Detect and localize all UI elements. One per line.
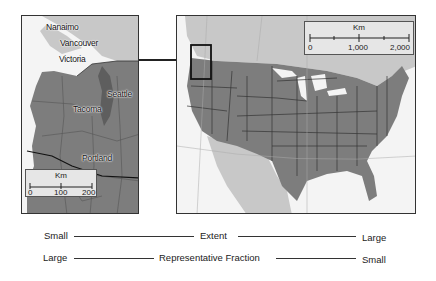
scale-tick-1000: 1,000	[348, 43, 368, 52]
rf-label: Representative Fraction	[159, 252, 260, 263]
city-label-seattle: Seattle	[107, 89, 132, 99]
scale-tick-0: 0	[28, 188, 32, 197]
rf-left-label: Large	[43, 252, 67, 263]
city-label-portland: Portland	[82, 153, 112, 163]
continental-map-usa: Km 0 1,000 2,000	[176, 15, 416, 214]
extent-axis: Small Extent Large	[0, 230, 436, 244]
extent-line-left	[74, 236, 194, 237]
rf-line-left	[74, 258, 154, 259]
scale-tick-100: 100	[54, 188, 67, 197]
city-label-tacoma: Tacoma	[73, 104, 102, 114]
scale-bar-regional: Km 0 100 200	[25, 169, 97, 197]
city-label-vancouver: Vancouver	[60, 38, 98, 48]
extent-right-label: Large	[362, 232, 386, 243]
extent-line-right	[238, 236, 356, 237]
regional-map-pacific-northwest: Nanaimo Vancouver Victoria Seattle Tacom…	[21, 15, 139, 214]
city-label-victoria: Victoria	[59, 54, 86, 64]
scale-bar-continental: Km 0 1,000 2,000	[304, 21, 414, 55]
extent-label: Extent	[200, 230, 227, 241]
scale-tick-0: 0	[308, 43, 312, 52]
representative-fraction-axis: Large Representative Fraction Small	[0, 252, 436, 266]
city-label-nanaimo: Nanaimo	[46, 22, 79, 32]
rf-line-right	[276, 258, 356, 259]
scale-tick-2000: 2,000	[390, 43, 410, 52]
scale-tick-200: 200	[82, 188, 95, 197]
extent-left-label: Small	[44, 230, 68, 241]
rf-right-label: Small	[362, 254, 386, 265]
